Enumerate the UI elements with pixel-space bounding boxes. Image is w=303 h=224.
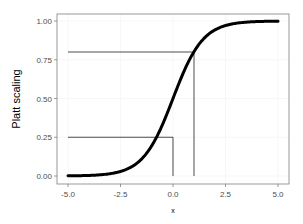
platt-scaling-chart: 0.000.250.500.751.00 -5.0-2.50.02.55.0 P… [0, 0, 303, 224]
x-axis-title: x [171, 207, 175, 214]
x-axis: -5.0-2.50.02.55.0 [61, 184, 284, 199]
x-tick-label: 5.0 [272, 190, 284, 199]
y-tick-label: 0.50 [36, 95, 52, 104]
x-tick-label: 2.5 [220, 190, 232, 199]
y-axis: 0.000.250.500.751.00 [36, 17, 57, 181]
x-tick-label: -5.0 [61, 190, 75, 199]
y-tick-label: 0.75 [36, 56, 52, 65]
y-tick-label: 0.25 [36, 133, 52, 142]
x-tick-label: 0.0 [167, 190, 179, 199]
y-tick-label: 0.00 [36, 172, 52, 181]
reference-lines [68, 52, 194, 176]
y-axis-title: Platt scaling [10, 69, 22, 128]
x-tick-label: -2.5 [114, 190, 128, 199]
y-tick-label: 1.00 [36, 17, 52, 26]
